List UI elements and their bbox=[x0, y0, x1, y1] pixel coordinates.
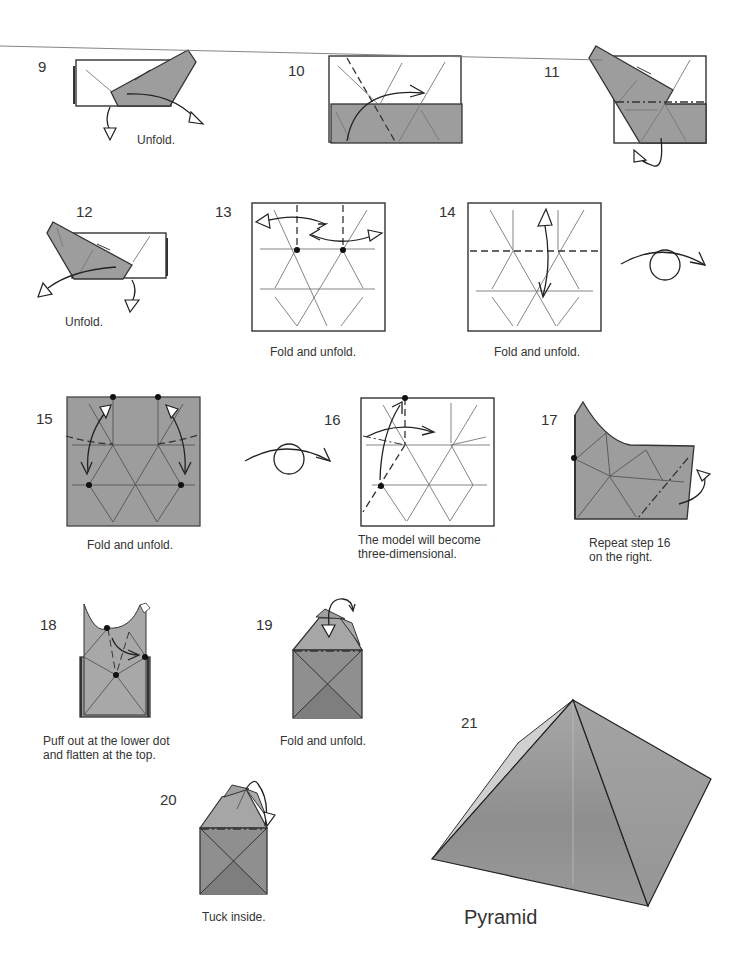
step-18-caption-line2: and flatten at the top. bbox=[43, 748, 156, 762]
turn-over-icon-2 bbox=[245, 444, 330, 474]
diagram-canvas bbox=[0, 0, 749, 956]
step-17-diagram bbox=[571, 402, 710, 519]
step-16-diagram bbox=[361, 395, 494, 526]
step-15-caption: Fold and unfold. bbox=[87, 538, 173, 552]
step-14-caption: Fold and unfold. bbox=[494, 345, 580, 359]
step-12-caption: Unfold. bbox=[65, 315, 103, 329]
step-number-20: 20 bbox=[160, 791, 177, 808]
step-number-15: 15 bbox=[36, 410, 53, 427]
step-12-diagram bbox=[38, 222, 167, 312]
step-number-14: 14 bbox=[439, 203, 456, 220]
step-number-11: 11 bbox=[544, 63, 560, 80]
step-number-16: 16 bbox=[324, 411, 341, 428]
step-9-caption: Unfold. bbox=[137, 133, 175, 147]
step-number-21: 21 bbox=[461, 714, 478, 731]
step-13-diagram bbox=[252, 203, 385, 331]
step-18-diagram bbox=[80, 603, 150, 717]
step-19-caption: Fold and unfold. bbox=[280, 734, 366, 748]
model-title: Pyramid bbox=[464, 906, 537, 929]
step-number-13: 13 bbox=[215, 203, 232, 220]
step-number-19: 19 bbox=[256, 616, 273, 633]
step-number-9: 9 bbox=[38, 58, 46, 75]
step-16-caption-line2: three-dimensional. bbox=[358, 547, 457, 561]
step-20-caption: Tuck inside. bbox=[202, 910, 266, 924]
step-18-caption-line1: Puff out at the lower dot bbox=[43, 734, 170, 748]
step-20-diagram bbox=[200, 781, 275, 894]
step-19-diagram bbox=[293, 599, 362, 718]
step-number-18: 18 bbox=[40, 616, 57, 633]
step-14-diagram bbox=[468, 203, 601, 331]
step-number-10: 10 bbox=[288, 62, 305, 79]
step-number-17: 17 bbox=[541, 411, 558, 428]
step-16-caption-line1: The model will become bbox=[358, 533, 481, 547]
step-17-caption-line1: Repeat step 16 bbox=[589, 536, 670, 550]
step-17-caption-line2: on the right. bbox=[589, 550, 652, 564]
step-9-diagram bbox=[74, 50, 203, 140]
turn-over-icon bbox=[621, 250, 705, 280]
step-13-caption: Fold and unfold. bbox=[270, 345, 356, 359]
step-15-diagram bbox=[66, 394, 201, 526]
step-10-diagram bbox=[329, 56, 462, 143]
step-number-12: 12 bbox=[76, 203, 93, 220]
